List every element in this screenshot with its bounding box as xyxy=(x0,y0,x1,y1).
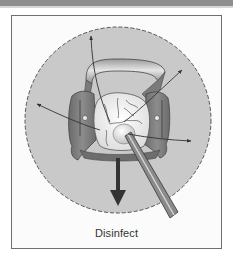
figure-caption: Disinfect xyxy=(11,227,222,239)
disinfect-illustration xyxy=(0,0,233,265)
